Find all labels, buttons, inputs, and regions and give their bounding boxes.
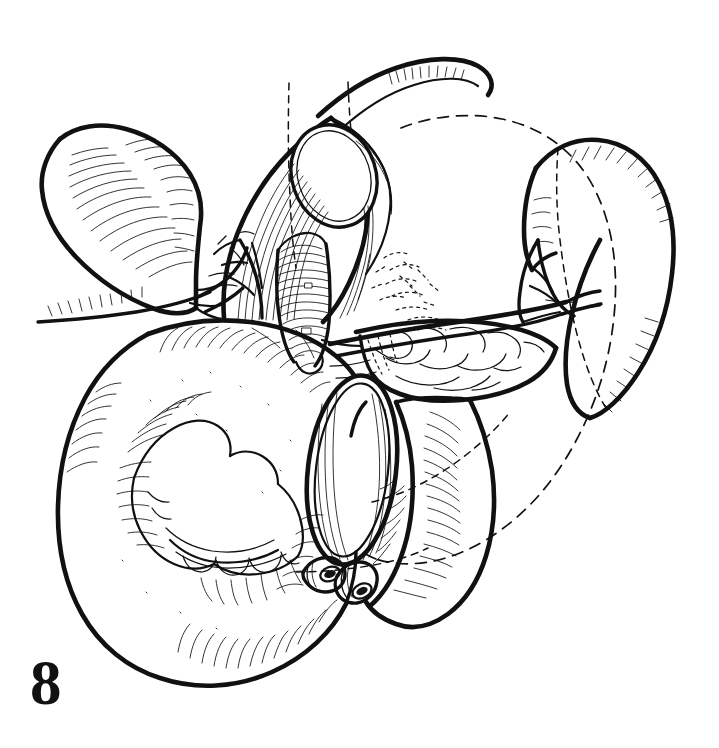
- figure-number: 8: [30, 652, 62, 715]
- ligature-clip-upper: [305, 283, 312, 288]
- surgical-illustration: [0, 0, 719, 748]
- figure-container: 8: [0, 0, 719, 748]
- ligature-clip: [302, 328, 311, 334]
